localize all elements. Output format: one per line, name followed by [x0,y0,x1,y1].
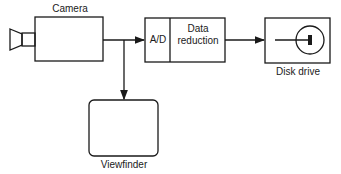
camera-label: Camera [50,3,90,14]
camera-lens-barrel [22,33,35,46]
disk-drive-label: Disk drive [268,66,328,77]
viewfinder-label: Viewfinder [94,159,154,170]
data-reduction-label-2: reduction [172,35,224,46]
block-diagram [0,0,341,174]
ad-label: A/D [146,34,170,45]
camera-lens-icon [10,29,22,50]
data-reduction-label-1: Data [172,23,224,34]
camera-box [35,17,103,61]
viewfinder-box [89,100,158,156]
